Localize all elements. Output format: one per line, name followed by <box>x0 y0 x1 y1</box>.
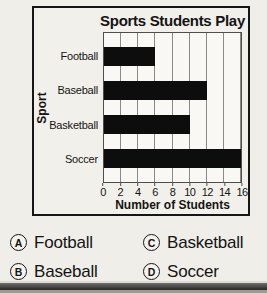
category-labels: FootballBaseballBasketballSoccer <box>50 32 103 183</box>
answer-letter-circle-a: A <box>10 234 27 251</box>
x-tick-label: 2 <box>118 186 124 198</box>
answer-label-football: Football <box>34 233 93 253</box>
category-label-basketball: Basketball <box>50 108 98 142</box>
answer-letter-circle-c: C <box>143 234 160 251</box>
answer-option-a[interactable]: AFootball <box>10 228 143 257</box>
answer-label-soccer: Soccer <box>167 262 219 282</box>
plot-area <box>103 32 242 183</box>
category-label-baseball: Baseball <box>50 73 98 107</box>
x-tick-label: 16 <box>236 186 247 198</box>
bar-soccer <box>104 149 241 168</box>
x-tick-label: 4 <box>135 186 141 198</box>
answer-letter-circle-d: D <box>143 263 160 280</box>
answer-options: AFootballBBaseballCBasketballDSoccer <box>0 228 267 286</box>
bar-row-football <box>104 40 241 74</box>
y-axis-title: Sport <box>35 92 49 123</box>
bar-basketball <box>104 115 190 134</box>
bar-row-soccer <box>104 141 241 175</box>
chart-panel: Sports Students Play Sport FootballBaseb… <box>32 6 250 216</box>
category-label-soccer: Soccer <box>50 142 98 176</box>
x-tick-12: 12 <box>202 183 213 198</box>
x-tick-6: 6 <box>152 183 158 198</box>
category-label-football: Football <box>50 39 98 73</box>
x-axis-title: Number of Students <box>103 199 242 214</box>
answer-label-basketball: Basketball <box>167 233 243 253</box>
x-tick-2: 2 <box>118 183 124 198</box>
page-edge-shadow <box>0 283 267 290</box>
x-tick-label: 8 <box>170 186 176 198</box>
x-tick-0: 0 <box>100 183 106 198</box>
x-tick-8: 8 <box>170 183 176 198</box>
x-tick-label: 6 <box>152 186 158 198</box>
chart-title: Sports Students Play <box>103 8 242 32</box>
x-tick-10: 10 <box>184 183 195 198</box>
x-axis-ticks: 0246810121416 <box>103 183 242 199</box>
bar-football <box>104 47 155 66</box>
x-tick-label: 0 <box>100 186 106 198</box>
answer-letter-circle-b: B <box>10 263 27 280</box>
x-tick-14: 14 <box>219 183 230 198</box>
bar-row-baseball <box>104 74 241 108</box>
x-tick-4: 4 <box>135 183 141 198</box>
bar-row-basketball <box>104 108 241 142</box>
x-tick-16: 16 <box>236 183 247 198</box>
page-edge-band <box>0 281 267 293</box>
y-axis-title-cell: Sport <box>34 32 50 183</box>
x-tick-label: 14 <box>219 186 230 198</box>
x-tick-label: 12 <box>202 186 213 198</box>
x-tick-label: 10 <box>184 186 195 198</box>
bar-baseball <box>104 81 207 100</box>
answer-option-c[interactable]: CBasketball <box>143 228 267 257</box>
answer-label-baseball: Baseball <box>34 262 98 282</box>
